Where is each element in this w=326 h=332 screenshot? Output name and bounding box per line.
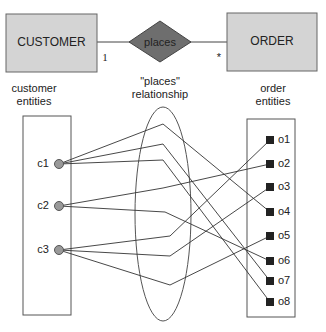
customer-label-c1: c1 <box>34 157 52 170</box>
order-node-o1 <box>266 136 274 144</box>
order-label-o7: o7 <box>278 274 294 287</box>
relationship-label: places <box>130 36 190 49</box>
order-label-o6: o6 <box>278 254 294 267</box>
order-label-o5: o5 <box>278 229 294 242</box>
order-label-o2: o2 <box>278 157 294 170</box>
er-diagram: CUSTOMER ORDER places 1 * customer entit… <box>0 0 326 332</box>
order-set-box <box>247 119 295 317</box>
customer-label-c3: c3 <box>34 243 52 256</box>
relationship-links <box>59 124 270 302</box>
customer-node-c2 <box>55 202 64 211</box>
relationship-caption-line2: relationship <box>125 88 195 101</box>
order-label-o8: o8 <box>278 295 294 308</box>
link-c3-o1 <box>59 140 270 250</box>
order-label-o4: o4 <box>278 205 294 218</box>
link-c1-o4 <box>59 124 270 212</box>
order-node-o2 <box>266 160 274 168</box>
customer-label-c2: c2 <box>34 199 52 212</box>
order-label-o1: o1 <box>278 133 294 146</box>
link-c1-o8 <box>59 160 270 302</box>
relationship-caption-line1: "places" <box>125 75 195 88</box>
link-c2-o6 <box>59 206 270 261</box>
order-node-o5 <box>266 232 274 240</box>
order-label-o3: o3 <box>278 180 294 193</box>
order-node-o8 <box>266 298 274 306</box>
order-entity-label: ORDER <box>227 35 317 48</box>
order-cardinality: * <box>214 51 224 64</box>
relationship-ellipse <box>135 107 191 321</box>
order-caption-line2: entities <box>248 95 298 108</box>
customer-caption-line1: customer <box>4 82 64 95</box>
customer-node-c3 <box>55 246 64 255</box>
customer-node-c1 <box>55 160 64 169</box>
order-caption-line1: order <box>248 82 298 95</box>
order-node-o4 <box>266 208 274 216</box>
order-node-o3 <box>266 183 274 191</box>
order-node-o6 <box>266 257 274 265</box>
customer-set-box <box>23 116 71 315</box>
order-node-o7 <box>266 277 274 285</box>
customer-caption-line2: entities <box>4 95 64 108</box>
customer-cardinality: 1 <box>100 51 110 64</box>
customer-entity-label: CUSTOMER <box>6 36 97 49</box>
